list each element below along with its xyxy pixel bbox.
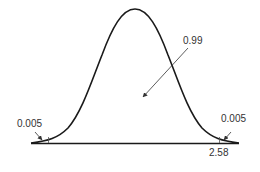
right-tail-area-label: 0.005: [221, 114, 246, 124]
bell-curve: [31, 9, 239, 143]
left-tail-area-label: 0.005: [17, 119, 42, 129]
right-tail-arrow: [224, 132, 231, 140]
center-area-label: 0.99: [183, 36, 202, 46]
left-tail-arrow: [35, 132, 42, 140]
normal-distribution-diagram: 0.99 0.005 0.005 2.58: [0, 0, 260, 172]
right-critical-value-label: 2.58: [209, 148, 228, 158]
